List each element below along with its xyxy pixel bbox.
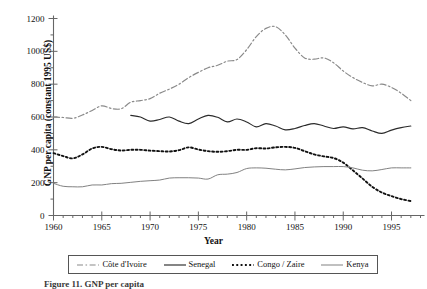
y-tick-label: 1000 xyxy=(0,46,45,56)
legend-label: Senegal xyxy=(189,260,216,269)
legend-swatch-solid-icon xyxy=(164,261,186,269)
figure-caption: Figure 11. GNP per capita xyxy=(44,279,384,289)
series-line-c-te-d-ivoire xyxy=(54,26,411,118)
plot-area: GNP per capita (constant 1995 US$) 02004… xyxy=(0,0,427,232)
legend-entry-kenya[interactable]: Kenya xyxy=(321,260,368,269)
x-tick-label: 1965 xyxy=(93,222,111,232)
y-tick-label: 200 xyxy=(0,178,45,188)
legend-entry-congo-zaire[interactable]: Congo / Zaire xyxy=(232,260,304,269)
legend-label: Côte d'Ivoire xyxy=(102,260,146,269)
series-line-senegal xyxy=(131,115,411,133)
y-tick-label: 1200 xyxy=(0,14,45,24)
legend-label: Congo / Zaire xyxy=(257,260,304,269)
legend-label: Kenya xyxy=(346,260,368,269)
legend-swatch-solid-thin-icon xyxy=(321,261,343,269)
legend-entry-senegal[interactable]: Senegal xyxy=(164,260,216,269)
series-line-kenya xyxy=(54,166,411,186)
x-tick-label: 1970 xyxy=(141,222,159,232)
figure-gnp-per-capita: GNP per capita (constant 1995 US$) 02004… xyxy=(0,0,427,289)
y-tick-label: 600 xyxy=(0,112,45,122)
y-tick-label: 400 xyxy=(0,145,45,155)
legend-swatch-dotted-icon xyxy=(232,261,254,269)
y-tick-label: 0 xyxy=(0,211,45,221)
legend-swatch-dashdot-icon xyxy=(77,261,99,269)
plot-svg xyxy=(0,0,427,232)
chart-legend: Côte d'IvoireSenegalCongo / ZaireKenya xyxy=(68,255,378,274)
x-tick-label: 1985 xyxy=(286,222,304,232)
caption-text: Figure 11. GNP per capita xyxy=(44,279,144,289)
legend-entry-c-te-d-ivoire[interactable]: Côte d'Ivoire xyxy=(77,260,146,269)
x-axis-title: Year xyxy=(0,236,427,246)
x-tick-label: 1980 xyxy=(238,222,256,232)
y-tick-label: 800 xyxy=(0,79,45,89)
x-tick-label: 1995 xyxy=(383,222,401,232)
x-tick-label: 1990 xyxy=(334,222,352,232)
x-tick-label: 1960 xyxy=(45,222,63,232)
x-tick-label: 1975 xyxy=(189,222,207,232)
